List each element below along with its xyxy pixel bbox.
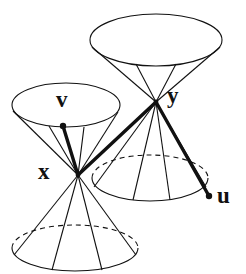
lower-cone-of-x-front-arc xyxy=(12,248,138,271)
label-y: y xyxy=(167,84,179,107)
u-endpoint-dot xyxy=(206,193,212,199)
label-u: u xyxy=(217,184,230,207)
cone-diagram-svg xyxy=(0,0,246,274)
x-apex-dot xyxy=(76,173,81,178)
vector-u-from-y xyxy=(156,102,209,196)
lower-cone-of-y xyxy=(92,102,208,201)
y-apex-dot xyxy=(154,100,159,105)
upper-cone-of-y-ruling-left-outer xyxy=(92,47,156,102)
light-cone-figure: x y v u xyxy=(0,0,246,274)
upper-cone-of-y-ruling-left-inner xyxy=(136,64,156,102)
lower-cone-of-y-front-arc xyxy=(92,178,208,201)
point-dot-group xyxy=(60,100,212,200)
upper-cone-of-y xyxy=(90,14,222,102)
lower-cone-of-y-ruling-left-outer xyxy=(94,102,156,187)
upper-cone-of-y-ruling-right-outer xyxy=(156,47,220,102)
label-x: x xyxy=(38,160,50,183)
lower-cone-of-x-ruling-left-inner xyxy=(52,175,78,270)
lower-cone-of-y-ruling-left-inner xyxy=(133,102,156,200)
vector-group xyxy=(63,102,209,196)
v-endpoint-dot xyxy=(60,123,66,129)
label-v: v xyxy=(56,88,68,111)
lower-cone-of-x xyxy=(12,175,138,271)
upper-cone-of-y-rim xyxy=(90,14,222,66)
lower-cone-of-x-back-arc xyxy=(12,225,138,248)
lower-cone-of-x-ruling-left-outer xyxy=(14,175,78,255)
lower-cone-of-x-ruling-right-outer xyxy=(78,175,136,255)
